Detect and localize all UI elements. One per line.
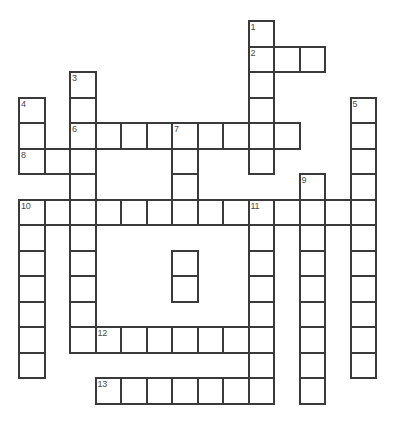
grid-cell[interactable] <box>171 250 199 278</box>
grid-cell[interactable] <box>350 173 378 201</box>
grid-cell[interactable] <box>222 122 250 150</box>
grid-cell[interactable] <box>146 199 174 227</box>
grid-cell[interactable] <box>18 122 46 150</box>
grid-cell[interactable] <box>248 301 276 329</box>
grid-cell-numbered[interactable] <box>171 122 199 150</box>
grid-cell[interactable] <box>299 275 327 303</box>
grid-cell[interactable] <box>120 326 148 354</box>
grid-cell[interactable] <box>197 199 225 227</box>
grid-cell[interactable] <box>44 148 72 176</box>
grid-cell[interactable] <box>350 352 378 380</box>
grid-cell[interactable] <box>350 199 378 227</box>
grid-cell[interactable] <box>18 326 46 354</box>
grid-cell[interactable] <box>350 224 378 252</box>
grid-cell[interactable] <box>171 275 199 303</box>
grid-cell[interactable] <box>69 199 97 227</box>
grid-cell[interactable] <box>69 97 97 125</box>
grid-cell[interactable] <box>222 199 250 227</box>
grid-cell[interactable] <box>69 250 97 278</box>
grid-cell[interactable] <box>350 250 378 278</box>
grid-cell[interactable] <box>324 199 352 227</box>
grid-cell[interactable] <box>95 199 123 227</box>
grid-cell[interactable] <box>350 301 378 329</box>
grid-cell[interactable] <box>248 224 276 252</box>
grid-cell[interactable] <box>69 148 97 176</box>
grid-cell[interactable] <box>273 46 301 74</box>
grid-cell[interactable] <box>18 301 46 329</box>
grid-cell[interactable] <box>248 97 276 125</box>
grid-cell[interactable] <box>299 326 327 354</box>
grid-cell[interactable] <box>171 326 199 354</box>
grid-cell[interactable] <box>69 301 97 329</box>
grid-cell-numbered[interactable] <box>248 46 276 74</box>
grid-cell-numbered[interactable] <box>248 199 276 227</box>
grid-cell[interactable] <box>69 275 97 303</box>
grid-cell[interactable] <box>171 148 199 176</box>
grid-cell[interactable] <box>146 377 174 405</box>
grid-cell[interactable] <box>299 377 327 405</box>
grid-cell[interactable] <box>197 377 225 405</box>
grid-cell[interactable] <box>299 250 327 278</box>
grid-cell[interactable] <box>248 275 276 303</box>
grid-cell-numbered[interactable] <box>18 148 46 176</box>
grid-cell[interactable] <box>248 326 276 354</box>
grid-cell[interactable] <box>18 224 46 252</box>
grid-cell[interactable] <box>171 199 199 227</box>
grid-cell[interactable] <box>222 326 250 354</box>
grid-cell-numbered[interactable] <box>18 97 46 125</box>
grid-cell[interactable] <box>197 326 225 354</box>
grid-cell[interactable] <box>350 326 378 354</box>
grid-cell-numbered[interactable] <box>69 122 97 150</box>
grid-cell[interactable] <box>69 224 97 252</box>
grid-cell[interactable] <box>146 326 174 354</box>
grid-cell[interactable] <box>248 352 276 380</box>
grid-cell[interactable] <box>299 301 327 329</box>
grid-cell[interactable] <box>44 199 72 227</box>
grid-cell[interactable] <box>248 377 276 405</box>
grid-cell[interactable] <box>222 377 250 405</box>
grid-cell-numbered[interactable] <box>299 173 327 201</box>
grid-cell[interactable] <box>273 199 301 227</box>
grid-cell[interactable] <box>350 148 378 176</box>
grid-cell[interactable] <box>171 377 199 405</box>
grid-cell[interactable] <box>120 199 148 227</box>
grid-cell[interactable] <box>197 122 225 150</box>
crossword-grid[interactable]: 12345678910111213 <box>0 0 418 423</box>
grid-cell-numbered[interactable] <box>18 199 46 227</box>
grid-cell[interactable] <box>120 377 148 405</box>
grid-cell[interactable] <box>248 148 276 176</box>
grid-cell[interactable] <box>18 275 46 303</box>
grid-cell[interactable] <box>120 122 148 150</box>
grid-cell[interactable] <box>299 352 327 380</box>
grid-cell[interactable] <box>350 275 378 303</box>
grid-cell[interactable] <box>146 122 174 150</box>
grid-cell[interactable] <box>69 326 97 354</box>
crossword-puzzle-page: 12345678910111213 <box>0 0 418 423</box>
grid-cell[interactable] <box>171 173 199 201</box>
grid-cell[interactable] <box>95 122 123 150</box>
grid-cell-numbered[interactable] <box>69 71 97 99</box>
grid-cell-numbered[interactable] <box>95 326 123 354</box>
grid-cell[interactable] <box>18 250 46 278</box>
grid-cell[interactable] <box>248 71 276 99</box>
grid-cell-numbered[interactable] <box>95 377 123 405</box>
grid-cell-numbered[interactable] <box>350 97 378 125</box>
grid-cell[interactable] <box>299 46 327 74</box>
grid-cell[interactable] <box>273 122 301 150</box>
grid-cell[interactable] <box>248 122 276 150</box>
grid-cell[interactable] <box>299 199 327 227</box>
grid-cell-numbered[interactable] <box>248 20 276 48</box>
grid-cell[interactable] <box>69 173 97 201</box>
grid-cell[interactable] <box>299 224 327 252</box>
grid-cell[interactable] <box>18 352 46 380</box>
grid-cell[interactable] <box>248 250 276 278</box>
grid-cell[interactable] <box>350 122 378 150</box>
